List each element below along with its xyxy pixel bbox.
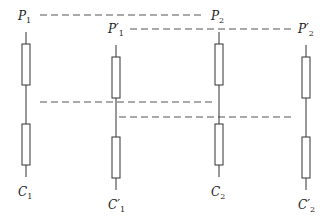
- bottom-label: C′2: [298, 198, 315, 214]
- dashed-guides: [40, 15, 295, 117]
- columns: P1C1P′1C′1P2C2P′2C′2: [17, 9, 315, 214]
- resistor-box-lower: [22, 124, 30, 165]
- bottom-label: C′1: [108, 198, 125, 214]
- top-label: P2: [210, 9, 224, 25]
- resistor-box-upper: [302, 57, 310, 98]
- column-2: P′1C′1: [107, 22, 125, 214]
- bottom-label: C1: [18, 185, 32, 201]
- alignment-diagram: P1C1P′1C′1P2C2P′2C′2: [0, 0, 332, 222]
- top-label: P′2: [297, 22, 314, 38]
- column-4: P′2C′2: [297, 22, 315, 214]
- resistor-box-lower: [215, 124, 223, 165]
- top-label: P1: [17, 9, 31, 25]
- top-label: P′1: [107, 22, 124, 38]
- resistor-box-upper: [112, 57, 120, 98]
- bottom-label: C2: [211, 185, 225, 201]
- column-1: P1C1: [17, 9, 32, 201]
- resistor-box-upper: [215, 44, 223, 85]
- column-3: P2C2: [210, 9, 225, 201]
- resistor-box-upper: [22, 44, 30, 85]
- resistor-box-lower: [302, 137, 310, 178]
- resistor-box-lower: [112, 137, 120, 178]
